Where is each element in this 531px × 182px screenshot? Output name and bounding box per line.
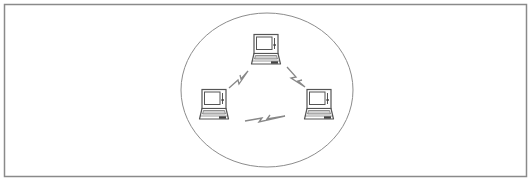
diagram-frame [5, 5, 527, 177]
link-top-right [287, 67, 305, 87]
laptop-nodes [200, 35, 334, 120]
wireless-links [229, 67, 305, 122]
laptop-top [252, 35, 281, 65]
link-left-right [245, 115, 285, 122]
wireless-signal-icon [229, 71, 248, 88]
network-diagram [0, 0, 531, 182]
diagram-canvas [0, 0, 531, 182]
link-top-left [229, 71, 248, 88]
wireless-signal-icon [287, 67, 305, 87]
laptop-icon [200, 90, 229, 120]
laptop-left [200, 90, 229, 120]
laptop-icon [252, 35, 281, 65]
laptop-right [305, 90, 334, 120]
laptop-icon [305, 90, 334, 120]
wireless-signal-icon [245, 115, 285, 122]
